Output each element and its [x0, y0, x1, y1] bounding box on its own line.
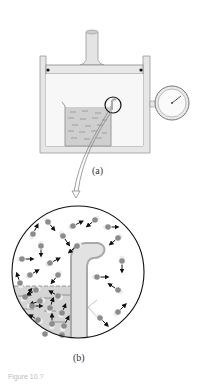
vapor-pressure-figure	[0, 0, 207, 384]
seal-right	[139, 68, 142, 71]
piston	[46, 65, 143, 74]
pressure-gauge	[155, 86, 189, 120]
molecule	[42, 331, 48, 337]
seal-left	[46, 68, 49, 71]
piston-rod	[80, 31, 104, 66]
panel-b-label: (b)	[73, 352, 85, 363]
container-apparatus	[40, 30, 189, 198]
panel-a-label: (a)	[92, 165, 103, 176]
magnified-view	[10, 206, 144, 346]
figure-caption: Figure 10.?	[8, 373, 43, 380]
